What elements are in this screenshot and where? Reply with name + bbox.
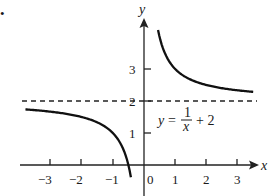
x-tick-label: 3 — [234, 172, 241, 187]
x-axis-label: x — [260, 158, 268, 173]
x-tick-labels: −3 −2 −1 0 1 2 3 — [38, 172, 241, 187]
y-tick-labels: 1 2 3 — [129, 62, 136, 141]
y-tick-label: 1 — [129, 126, 136, 141]
x-tick-label: −1 — [105, 172, 119, 187]
y-tick-label: 2 — [129, 94, 136, 109]
equation-equals: = — [168, 113, 176, 128]
x-tick-label: 2 — [203, 172, 210, 187]
bullet-mark: • — [0, 6, 5, 21]
equation-lhs: y — [156, 113, 165, 128]
x-tick-label: 0 — [147, 172, 154, 187]
y-tick-label: 3 — [129, 62, 136, 77]
equation-label: y = 1 x + 2 — [156, 105, 214, 134]
x-tick-label: −3 — [38, 172, 52, 187]
curve-left-branch — [25, 109, 130, 177]
x-tick-label: 1 — [172, 172, 179, 187]
equation-numerator: 1 — [184, 105, 191, 120]
equation-rhs: + 2 — [196, 113, 214, 128]
y-axis-label: y — [137, 2, 146, 17]
y-ticks — [144, 69, 151, 133]
x-tick-label: −2 — [69, 172, 83, 187]
curve-right-branch — [158, 30, 253, 92]
equation-denominator: x — [182, 119, 190, 134]
chart-canvas: • x y −3 −2 −1 0 1 2 3 1 2 3 y — [0, 0, 271, 196]
